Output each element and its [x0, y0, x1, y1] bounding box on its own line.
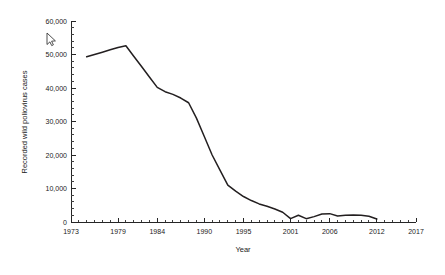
x-axis-title: Year	[235, 245, 251, 254]
y-axis-tick-labels: 010,00020,00030,00040,00050,00060,000	[46, 18, 68, 226]
x-tick-label: 1979	[110, 228, 126, 235]
x-axis-major-ticks	[71, 218, 416, 223]
y-tick-label: 50,000	[46, 51, 68, 58]
y-tick-label: 60,000	[46, 18, 68, 25]
data-series-group	[87, 46, 377, 219]
x-tick-label: 1984	[149, 228, 165, 235]
y-tick-label: 40,000	[46, 85, 68, 92]
mouse-pointer-arrow-icon	[47, 33, 55, 46]
y-axis-major-ticks	[71, 21, 76, 222]
x-tick-label: 2017	[408, 228, 424, 235]
chart-canvas: 010,00020,00030,00040,00050,00060,000 Re…	[0, 0, 445, 275]
x-tick-label: 2001	[283, 228, 299, 235]
series-line-poliovirus-cases	[87, 46, 377, 219]
x-tick-label: 1973	[63, 228, 79, 235]
x-tick-label: 1990	[197, 228, 213, 235]
y-tick-label: 0	[63, 219, 67, 226]
poliovirus-cases-line-chart: 010,00020,00030,00040,00050,00060,000 Re…	[0, 0, 445, 275]
x-tick-label: 1995	[236, 228, 252, 235]
y-tick-label: 30,000	[46, 118, 68, 125]
x-tick-label: 2012	[369, 228, 385, 235]
x-axis-tick-labels: 197319791984199019952001200620122017	[63, 228, 424, 235]
y-axis-title: Recorded wild poliovirus cases	[20, 70, 29, 173]
x-axis-group: 197319791984199019952001200620122017 Yea…	[63, 218, 424, 255]
y-tick-label: 10,000	[46, 185, 68, 192]
x-tick-label: 2006	[322, 228, 338, 235]
y-axis-group: 010,00020,00030,00040,00050,00060,000 Re…	[20, 18, 76, 226]
y-tick-label: 20,000	[46, 152, 68, 159]
